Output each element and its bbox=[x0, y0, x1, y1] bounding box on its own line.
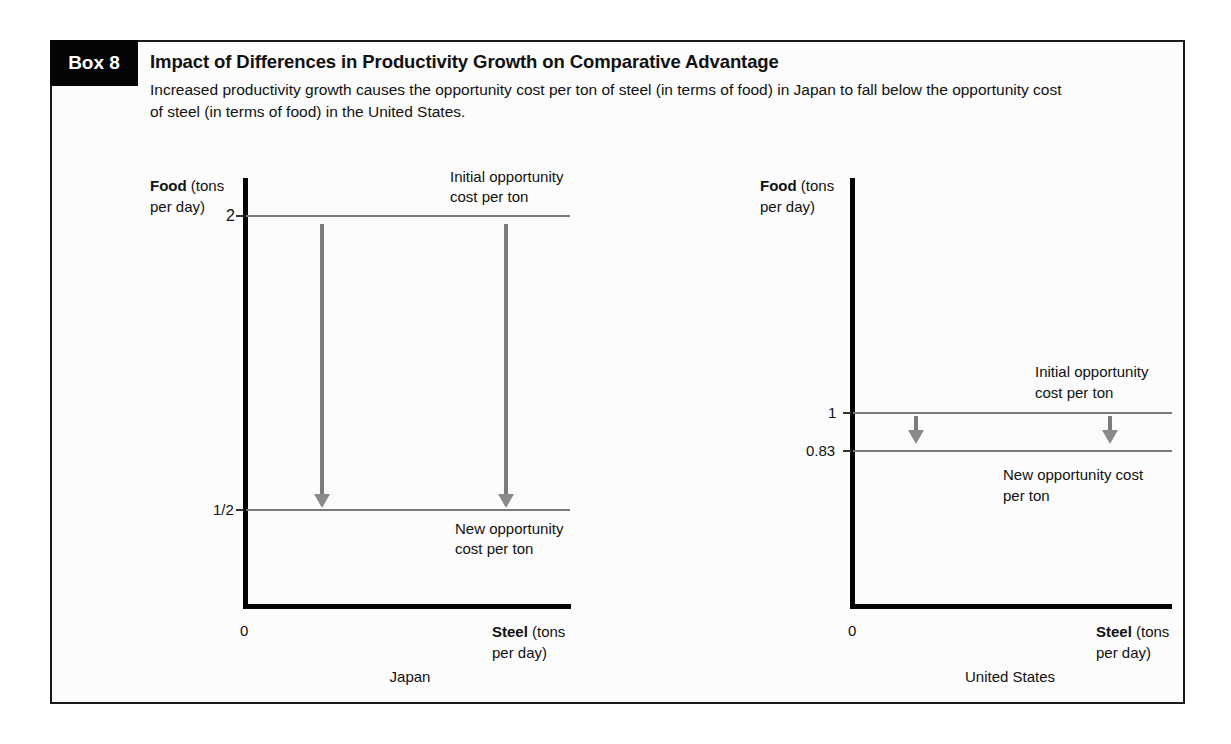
new-cost-label-line2: cost per ton bbox=[455, 539, 533, 558]
chart-caption: Japan bbox=[340, 668, 480, 685]
x-axis-label-line2: per day) bbox=[492, 643, 547, 662]
x-axis bbox=[243, 604, 571, 609]
y-axis bbox=[243, 178, 248, 608]
box-description: Increased productivity growth causes the… bbox=[150, 79, 1070, 123]
initial-cost-label: Initial opportunity bbox=[450, 167, 563, 186]
y-axis-label: Food (tons bbox=[760, 176, 834, 195]
tick-high bbox=[236, 215, 244, 217]
y-axis bbox=[850, 178, 855, 608]
x-axis bbox=[850, 604, 1172, 609]
initial-cost-line bbox=[246, 215, 570, 217]
y-axis-label-line2: per day) bbox=[150, 197, 205, 216]
tick-low bbox=[236, 509, 244, 511]
down-arrow-icon bbox=[504, 224, 508, 496]
x-axis-label-line2: per day) bbox=[1096, 643, 1151, 662]
tick-high bbox=[843, 412, 851, 414]
tick-low bbox=[843, 450, 851, 452]
origin-label: 0 bbox=[848, 621, 856, 640]
new-cost-label: New opportunity cost bbox=[1003, 465, 1143, 484]
chart-caption: United States bbox=[940, 668, 1080, 685]
origin-label: 0 bbox=[240, 621, 248, 640]
new-cost-label-line2: per ton bbox=[1003, 486, 1050, 505]
initial-cost-label-line2: cost per ton bbox=[450, 187, 528, 206]
initial-cost-line bbox=[853, 412, 1172, 414]
tick-label-high: 1 bbox=[828, 403, 836, 422]
tick-label-low: 0.83 bbox=[806, 441, 835, 460]
new-cost-label: New opportunity bbox=[455, 519, 563, 538]
initial-cost-label: Initial opportunity bbox=[1035, 362, 1148, 381]
box-tag: Box 8 bbox=[50, 40, 138, 86]
x-axis-label: Steel (tons bbox=[492, 622, 565, 641]
new-cost-line bbox=[246, 509, 570, 511]
box-title: Impact of Differences in Productivity Gr… bbox=[150, 51, 779, 73]
initial-cost-label-line2: cost per ton bbox=[1035, 383, 1113, 402]
down-arrow-icon bbox=[1108, 416, 1112, 432]
down-arrow-icon bbox=[320, 224, 324, 496]
new-cost-line bbox=[853, 450, 1172, 452]
tick-label-low: 1/2 bbox=[213, 500, 234, 519]
x-axis-label: Steel (tons bbox=[1096, 622, 1169, 641]
tick-label-high: 2 bbox=[226, 206, 235, 225]
down-arrow-icon bbox=[914, 416, 918, 432]
y-axis-label-line2: per day) bbox=[760, 197, 815, 216]
y-axis-label: Food (tons bbox=[150, 176, 224, 195]
